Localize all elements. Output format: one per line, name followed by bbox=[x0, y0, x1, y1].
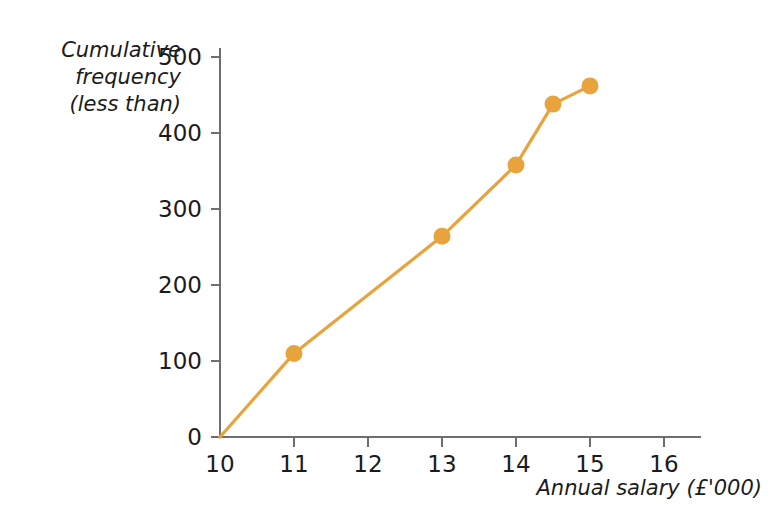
data-point-marker bbox=[582, 77, 599, 94]
y-axis-title-line-3: (less than) bbox=[70, 92, 181, 116]
data-point-marker bbox=[508, 156, 525, 173]
y-tick-label: 300 bbox=[158, 196, 202, 222]
x-tick-label: 12 bbox=[353, 451, 382, 477]
y-tick-label: 100 bbox=[158, 348, 202, 374]
y-tick-label: 0 bbox=[187, 424, 202, 450]
y-tick-label: 200 bbox=[158, 272, 202, 298]
x-tick-label: 13 bbox=[427, 451, 456, 477]
x-tick-label: 16 bbox=[649, 451, 678, 477]
data-point-marker bbox=[286, 345, 303, 362]
data-point-marker bbox=[545, 96, 562, 113]
x-tick-label: 15 bbox=[575, 451, 604, 477]
y-tick-label: 400 bbox=[158, 120, 202, 146]
y-axis-title: Cumulative frequency (less than) bbox=[61, 38, 181, 116]
chart-canvas: 0100200300400500 10111213141516 Cumulati… bbox=[0, 0, 780, 516]
x-tick-label: 14 bbox=[501, 451, 530, 477]
y-axis-title-line-1: Cumulative bbox=[61, 38, 181, 62]
x-tick-label: 11 bbox=[279, 451, 308, 477]
x-tick-label: 10 bbox=[205, 451, 234, 477]
cumulative-frequency-chart: 0100200300400500 10111213141516 Cumulati… bbox=[0, 0, 780, 516]
data-point-marker bbox=[434, 228, 451, 245]
y-axis-title-line-2: frequency bbox=[75, 65, 181, 89]
x-axis-title: Annual salary (£'000) bbox=[534, 476, 762, 500]
